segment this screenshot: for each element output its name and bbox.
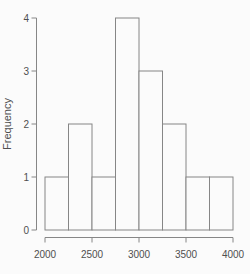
histogram-bar [139, 71, 163, 230]
y-tick-label: 0 [23, 225, 29, 236]
x-tick-label: 3500 [175, 249, 198, 260]
x-tick-label: 2000 [34, 249, 57, 260]
y-tick-label: 3 [23, 66, 29, 77]
histogram-bar [92, 177, 116, 230]
histogram-bar [186, 177, 210, 230]
histogram-figure: 0123420002500300035004000Frequency [0, 0, 250, 274]
x-tick-label: 4000 [222, 249, 245, 260]
y-tick-label: 2 [23, 119, 29, 130]
y-tick-label: 4 [23, 13, 29, 24]
histogram-bar [116, 18, 140, 230]
x-tick-label: 2500 [81, 249, 104, 260]
y-tick-label: 1 [23, 172, 29, 183]
histogram-bar [45, 177, 69, 230]
x-tick-label: 3000 [128, 249, 151, 260]
histogram-bar [69, 124, 93, 230]
histogram-canvas: 0123420002500300035004000Frequency [0, 0, 250, 274]
histogram-bar [163, 124, 187, 230]
y-axis-label: Frequency [1, 98, 13, 150]
histogram-bar [210, 177, 234, 230]
